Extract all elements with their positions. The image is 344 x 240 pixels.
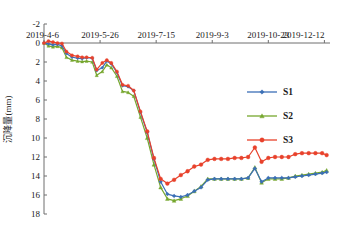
x-tick-label: 2019-5-26 (81, 30, 119, 40)
data-point-marker (101, 61, 104, 64)
data-point-marker (127, 84, 130, 87)
chart-canvas: -2024681012141618 2019-4-62019-5-262019-… (0, 0, 344, 240)
data-point-marker (325, 153, 329, 157)
data-point-marker (47, 40, 50, 43)
y-tick-label: 16 (31, 190, 41, 200)
legend-label: S3 (283, 135, 293, 145)
data-point-marker (152, 156, 156, 160)
data-point-marker (239, 156, 243, 160)
data-point-marker (179, 173, 183, 177)
data-point-marker (105, 59, 108, 62)
y-tick-label: -2 (33, 19, 41, 29)
chart-legend: S1S2S3 (247, 87, 293, 145)
y-tick-labels: -2024681012141618 (31, 19, 47, 219)
data-point-marker (76, 55, 79, 58)
data-point-marker (213, 157, 217, 161)
data-point-marker (91, 56, 94, 59)
data-point-marker (56, 41, 59, 44)
y-axis-title: 沉降量(mm) (2, 96, 13, 143)
data-point-marker (280, 155, 284, 159)
data-point-marker (165, 182, 169, 186)
x-tick-label: 2019-4-6 (26, 30, 59, 40)
x-tick-labels: 2019-4-62019-5-262019-7-152019-9-32019-1… (26, 30, 324, 43)
data-point-marker (260, 138, 264, 142)
data-point-marker (246, 155, 250, 159)
data-point-marker (226, 157, 230, 161)
data-point-marker (300, 151, 304, 155)
data-point-marker (186, 169, 190, 173)
data-point-marker (85, 56, 88, 59)
y-tick-label: 8 (36, 114, 41, 124)
data-point-marker (192, 165, 196, 169)
data-point-marker (145, 129, 149, 133)
data-point-marker (320, 151, 324, 155)
data-point-marker (110, 61, 113, 64)
y-axis-title-text: 沉降量(mm) (2, 96, 13, 143)
legend-item-s1: S1 (247, 87, 293, 97)
data-point-marker (42, 41, 45, 44)
data-point-marker (266, 156, 270, 160)
data-point-marker (132, 89, 135, 92)
data-point-marker (81, 56, 84, 59)
data-point-marker (287, 155, 291, 159)
legend-item-s2: S2 (247, 111, 293, 121)
y-tick-label: 18 (31, 209, 41, 219)
data-point-marker (199, 163, 203, 167)
x-tick-label: 2019-7-15 (137, 30, 175, 40)
x-tick-label: 2019-9-3 (196, 30, 229, 40)
data-point-marker (260, 160, 264, 164)
data-point-marker (139, 110, 142, 113)
data-point-marker (115, 70, 118, 73)
data-point-marker (260, 90, 264, 94)
data-point-marker (219, 157, 223, 161)
data-point-marker (95, 68, 98, 71)
data-point-marker (51, 40, 54, 43)
y-tick-label: 4 (36, 76, 41, 86)
legend-label: S1 (283, 87, 293, 97)
y-tick-label: 14 (31, 171, 41, 181)
data-point-marker (70, 54, 73, 57)
data-point-marker (307, 151, 311, 155)
data-point-marker (293, 152, 297, 156)
y-tick-label: 6 (36, 95, 41, 105)
data-point-marker (314, 151, 318, 155)
data-point-marker (172, 194, 176, 198)
data-point-marker (159, 177, 163, 181)
settlement-line-chart: -2024681012141618 2019-4-62019-5-262019-… (0, 0, 344, 240)
data-point-marker (273, 155, 277, 159)
y-tick-label: 2 (36, 57, 41, 67)
data-point-marker (60, 42, 63, 45)
y-tick-label: 12 (31, 152, 40, 162)
data-point-marker (121, 83, 124, 86)
legend-item-s3: S3 (247, 135, 293, 145)
y-tick-label: 10 (31, 133, 41, 143)
x-tick-label: 2019-12-12 (282, 30, 324, 40)
data-point-marker (253, 146, 257, 150)
data-point-marker (233, 156, 237, 160)
legend-label: S2 (283, 111, 293, 121)
data-point-marker (206, 158, 210, 162)
series-line (44, 43, 327, 201)
data-point-marker (65, 50, 68, 53)
data-point-marker (172, 178, 176, 182)
data-point-marker (159, 186, 163, 190)
